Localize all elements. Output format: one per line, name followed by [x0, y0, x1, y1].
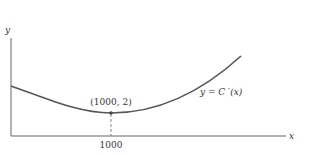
curve-label-suffix: ′(x)	[225, 87, 242, 97]
minimum-point	[109, 111, 113, 115]
y-axis-label: y	[4, 25, 11, 35]
x-axis-label: x	[289, 131, 294, 141]
x-tick-1000: 1000	[100, 140, 123, 150]
chart-canvas: y x 1000 (1000, 2) y = C ′(x)	[0, 0, 309, 155]
curve-label-prefix: y = C	[199, 87, 225, 97]
point-label: (1000, 2)	[90, 97, 131, 107]
curve-label: y = C ′(x)	[199, 87, 243, 97]
